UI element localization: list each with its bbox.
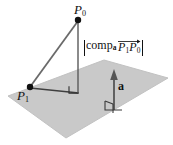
point-label-p1-sub: 1 (25, 95, 29, 104)
point-label-p0-sub: 0 (82, 9, 86, 18)
plane-surface (8, 60, 168, 138)
comp-word-text: comp (86, 38, 113, 52)
absolute-value-bar-open (84, 40, 85, 56)
scalar-projection-diagram: P0 P1 a compaP1P0 (0, 0, 173, 145)
point-label-p1: P1 (17, 89, 29, 104)
diagram-canvas (0, 0, 173, 145)
comp-word: compa (86, 39, 117, 52)
vector-p1p0: P1P0 (118, 39, 140, 54)
absolute-value-bar-close (142, 40, 143, 56)
vector-label-a: a (118, 80, 124, 92)
point-label-p1-base: P (17, 88, 25, 103)
point-label-p0-base: P (74, 2, 82, 17)
vector-overbar-arrow-icon (118, 39, 140, 44)
projection-magnitude-label: compaP1P0 (82, 39, 144, 55)
comp-word-subscript: a (113, 43, 117, 52)
point-label-p0: P0 (74, 3, 86, 18)
vector-p0-sub: 0 (137, 46, 141, 55)
